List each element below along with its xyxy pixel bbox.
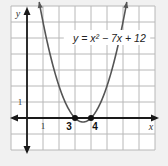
equation-text: y = x² − 7x + 12 <box>72 32 146 44</box>
curve-arrow-icon <box>38 2 43 8</box>
root-label: 4 <box>92 121 98 132</box>
root-label: 3 <box>66 121 72 132</box>
curve-arrow-icon <box>123 2 128 8</box>
x-tick-label: 1 <box>41 121 46 131</box>
x-axis-label: x <box>148 121 154 132</box>
root-point <box>72 115 78 121</box>
y-tick-label: 1 <box>18 97 23 107</box>
parabola-chart: 11xy 34 y = x² − 7x + 12 <box>0 0 168 166</box>
y-axis-label: y <box>15 8 21 19</box>
plot-background <box>11 6 155 150</box>
equation-label: y = x² − 7x + 12 <box>64 30 150 45</box>
